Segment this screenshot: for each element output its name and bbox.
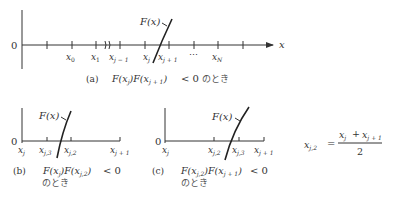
svg-text:xj,2: xj,2 — [64, 145, 77, 157]
svg-text:xj + 1: xj + 1 — [362, 129, 382, 142]
curve-label-leader — [162, 23, 167, 26]
bisection-diagram: 0 x F(x) x0 x1 xj − 1 xj xj + 1 ⋯ xN — [0, 0, 394, 198]
svg-text:(b): (b) — [13, 166, 26, 176]
caption-b: (b) F(xj)F(xj,2) < 0 のとき — [13, 165, 121, 188]
svg-text:xj,3: xj,3 — [39, 145, 52, 157]
svg-text:xj + 1: xj + 1 — [254, 145, 274, 157]
caption-a: (a) F(xj)F(xj + 1) < 0 のとき — [86, 73, 229, 86]
caption-c: (c) F(xj,2)F(xj + 1) < 0 のとき — [152, 165, 268, 188]
svg-text:xj: xj — [18, 145, 25, 157]
svg-text:xj − 1: xj − 1 — [109, 52, 129, 64]
svg-text:のとき: のとき — [42, 178, 69, 188]
origin-label: 0 — [155, 136, 161, 147]
svg-text:xj: xj — [339, 129, 346, 142]
svg-text:xj,2: xj,2 — [208, 145, 221, 157]
midpoint-formula: xj,2 = xj + xj + 1 2 — [304, 128, 382, 157]
tick-labels: x0 x1 xj − 1 xj xj + 1 ⋯ xN — [66, 50, 223, 64]
panel-c: 0 F(x) xj xj,2 xj,3 xj + 1 (c) F(xj,2)F(… — [152, 107, 274, 188]
svg-text:< 0: < 0 — [103, 165, 121, 176]
svg-text:xj: xj — [162, 145, 169, 157]
panel-b: 0 F(x) xj xj,3 xj,2 xj + 1 (b) F(xj)F(xj… — [11, 108, 130, 188]
svg-text:x0: x0 — [66, 52, 75, 63]
svg-text:2: 2 — [357, 146, 363, 157]
svg-text:< 0: < 0 — [181, 73, 199, 84]
svg-text:xN: xN — [212, 52, 223, 63]
curve-label: F(x) — [211, 111, 232, 122]
svg-text:xj + 1: xj + 1 — [158, 52, 178, 64]
origin-label: 0 — [11, 40, 17, 51]
origin-label: 0 — [11, 136, 17, 147]
curve-label: F(x) — [139, 16, 160, 27]
svg-text:x1: x1 — [91, 52, 100, 63]
svg-text:F(xj,2)F(xj + 1): F(xj,2)F(xj + 1) — [180, 165, 242, 178]
svg-text:のとき: のとき — [181, 178, 208, 188]
curve-label: F(x) — [38, 110, 59, 121]
svg-text:xj + 1: xj + 1 — [110, 145, 130, 157]
svg-text:xj,2: xj,2 — [304, 139, 317, 152]
svg-text:=: = — [327, 138, 335, 149]
svg-text:F(xj)F(xj,2): F(xj)F(xj,2) — [42, 165, 92, 178]
svg-text:< 0: < 0 — [250, 165, 268, 176]
x-axis-label: x — [279, 39, 285, 50]
svg-text:xj: xj — [143, 52, 150, 64]
svg-text:⋯: ⋯ — [189, 50, 198, 60]
svg-text:F(xj)F(xj + 1): F(xj)F(xj + 1) — [111, 73, 167, 86]
svg-text:xj,3: xj,3 — [232, 145, 245, 157]
svg-text:(a): (a) — [86, 74, 98, 84]
svg-text:(c): (c) — [152, 166, 164, 176]
svg-text:+: + — [352, 128, 360, 139]
panel-a: 0 x F(x) x0 x1 xj − 1 xj xj + 1 ⋯ xN — [11, 10, 285, 86]
svg-text:のとき: のとき — [202, 74, 229, 84]
